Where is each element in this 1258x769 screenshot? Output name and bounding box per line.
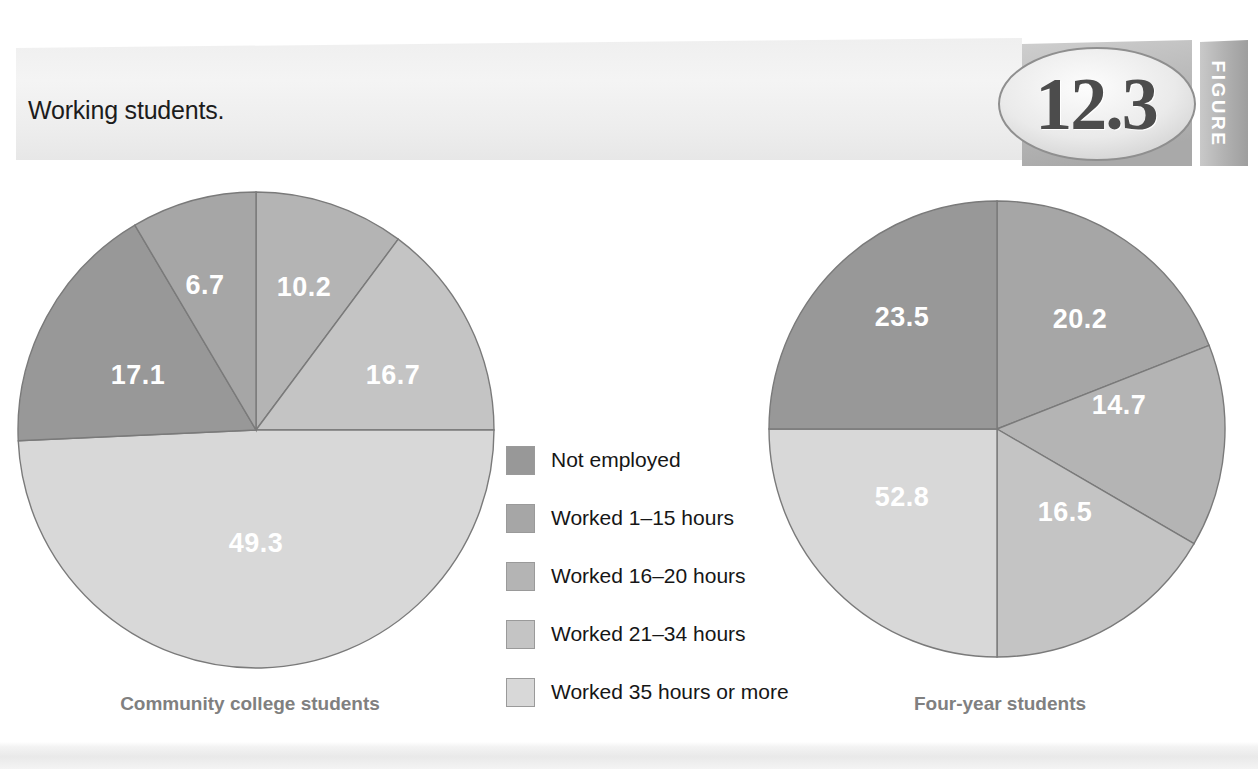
pie-caption-four-year: Four-year students xyxy=(830,693,1170,715)
pie-slice-value-label: 52.8 xyxy=(875,482,930,512)
figure-badge: 12.3 FIGURE xyxy=(992,40,1258,166)
legend-item[interactable]: Worked 35 hours or more xyxy=(506,663,789,721)
legend-item-label: Worked 21–34 hours xyxy=(551,622,746,646)
pie-slice-value-label: 17.1 xyxy=(111,360,166,390)
figure-word-label: FIGURE xyxy=(1197,44,1239,164)
pie-right-slices xyxy=(769,201,1225,657)
legend-item-label: Worked 16–20 hours xyxy=(551,564,746,588)
legend-item-label: Worked 35 hours or more xyxy=(551,680,789,704)
pie-slice-value-label: 6.7 xyxy=(185,270,224,300)
pie-left-slices xyxy=(18,192,494,668)
pie-caption-community-college: Community college students xyxy=(80,693,420,715)
pie-slice-value-label: 14.7 xyxy=(1092,390,1147,420)
footer-divider-band xyxy=(0,742,1258,769)
legend-swatch-icon xyxy=(506,620,535,649)
pie-slice-value-label: 10.2 xyxy=(277,272,332,302)
legend-swatch-icon xyxy=(506,562,535,591)
legend-item[interactable]: Not employed xyxy=(506,431,789,489)
chart-legend: Not employedWorked 1–15 hoursWorked 16–2… xyxy=(506,431,789,721)
pie-chart-four-year: 20.214.716.552.823.5 xyxy=(762,197,1232,667)
pie-slice-value-label: 16.7 xyxy=(366,360,421,390)
legend-item-label: Worked 1–15 hours xyxy=(551,506,734,530)
legend-swatch-icon xyxy=(506,446,535,475)
figure-word-text: FIGURE xyxy=(1207,61,1229,148)
pie-slice-value-label: 20.2 xyxy=(1053,304,1108,334)
pie-slice[interactable] xyxy=(769,429,997,657)
legend-swatch-icon xyxy=(506,678,535,707)
legend-item-label: Not employed xyxy=(551,448,681,472)
chart-area: 10.216.749.317.16.7 20.214.716.552.823.5… xyxy=(0,160,1258,720)
page-title: Working students. xyxy=(28,96,224,125)
pie-slice-value-label: 23.5 xyxy=(875,302,930,332)
legend-item[interactable]: Worked 21–34 hours xyxy=(506,605,789,663)
legend-item[interactable]: Worked 16–20 hours xyxy=(506,547,789,605)
pie-slice-value-label: 49.3 xyxy=(229,528,284,558)
pie-chart-community-college: 10.216.749.317.16.7 xyxy=(8,185,498,675)
pie-slice-value-label: 16.5 xyxy=(1038,497,1093,527)
figure-number: 12.3 xyxy=(1002,48,1190,160)
legend-swatch-icon xyxy=(506,504,535,533)
legend-item[interactable]: Worked 1–15 hours xyxy=(506,489,789,547)
